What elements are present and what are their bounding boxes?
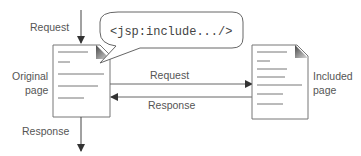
- request-in-label: Request: [30, 21, 69, 33]
- included-page-label-line2: page: [313, 84, 337, 96]
- original-page-document-icon: [53, 45, 110, 117]
- included-page-document-icon: [252, 45, 308, 119]
- original-page-label-line1: Original: [12, 70, 48, 82]
- middle-request-label: Request: [150, 69, 189, 81]
- response-out-label: Response: [22, 125, 69, 137]
- middle-response-label: Response: [148, 99, 195, 111]
- callout-code-text: <jsp:include.../>: [110, 25, 232, 39]
- original-page-label-line2: page: [25, 84, 49, 96]
- included-page-label-line1: Included: [313, 70, 353, 82]
- jsp-include-diagram: Request Original page Response <jsp:incl…: [0, 0, 361, 156]
